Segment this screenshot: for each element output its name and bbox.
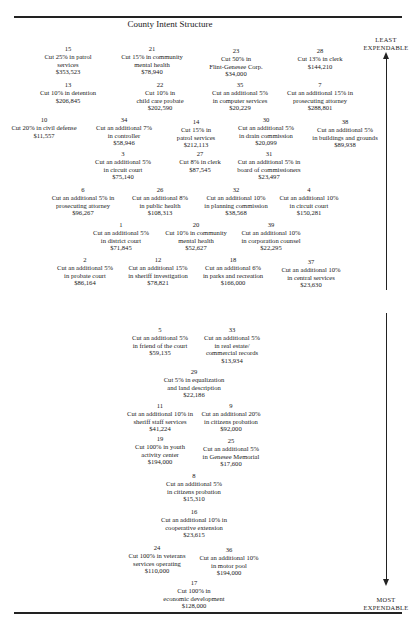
intent-item: 17Cut 100% ineconomic development$128,00… xyxy=(163,579,224,610)
item-description: Cut an additional 10% xyxy=(241,229,300,237)
item-amount: $194,000 xyxy=(199,569,258,577)
item-rank: 11 xyxy=(127,402,193,410)
axis-line-lower xyxy=(386,313,387,580)
item-description: services operating xyxy=(129,560,186,568)
item-description: Cut an additional 5% xyxy=(204,334,260,342)
item-description: mental health xyxy=(165,237,227,245)
item-amount: $11,557 xyxy=(11,132,76,140)
item-rank: 30 xyxy=(238,116,294,124)
item-rank: 9 xyxy=(201,402,260,410)
intent-item: 3Cut an additional 5%in circuit court$75… xyxy=(95,150,151,181)
top-rule xyxy=(14,16,402,18)
item-rank: 10 xyxy=(11,116,76,124)
item-rank: 23 xyxy=(209,47,262,55)
item-rank: 39 xyxy=(241,221,300,229)
item-description: in corporation counsel xyxy=(241,237,300,245)
item-amount: $87,545 xyxy=(179,166,221,174)
item-description: Cut 8% in clerk xyxy=(179,158,221,166)
item-description: Flint-Genesee Corp. xyxy=(209,63,262,71)
item-description: in probate court xyxy=(57,272,113,280)
intent-item: 33Cut an additional 5%in real estate/com… xyxy=(204,326,260,365)
item-amount: $22,186 xyxy=(164,391,225,399)
item-amount: $212,113 xyxy=(177,141,215,149)
item-description: Cut 100% in youth xyxy=(135,443,185,451)
intent-item: 38Cut an additional 5%in buildings and g… xyxy=(312,118,377,149)
item-amount: $166,000 xyxy=(203,279,263,287)
item-rank: 7 xyxy=(287,81,353,89)
item-amount: $288,801 xyxy=(287,104,353,112)
item-description: in citizens probation xyxy=(201,418,260,426)
item-description: child care probate xyxy=(136,97,183,105)
item-amount: $110,000 xyxy=(129,567,186,575)
item-rank: 17 xyxy=(163,579,224,587)
intent-item: 12Cut an additional 15%in sheriff invest… xyxy=(128,256,188,287)
intent-item: 15Cut 25% in patrolservices$353,523 xyxy=(44,45,91,76)
least-expendable-label: LEAST EXPENDABLE xyxy=(356,36,413,51)
intent-item: 28Cut 13% in clerk$144,210 xyxy=(298,47,343,70)
item-amount: $202,590 xyxy=(136,104,183,112)
item-description: in circuit court xyxy=(279,202,338,210)
item-description: Cut an additional 5% xyxy=(166,480,222,488)
intent-item: 2Cut an additional 5%in probate court$86… xyxy=(57,256,113,287)
item-rank: 25 xyxy=(203,437,260,445)
item-amount: $78,940 xyxy=(121,68,183,76)
item-description: Cut 100% in veterans xyxy=(129,552,186,560)
item-rank: 20 xyxy=(165,221,227,229)
most-label-line1: MOST xyxy=(356,596,413,604)
item-rank: 4 xyxy=(279,186,338,194)
intent-item: 4Cut an additional 10%in circuit court$1… xyxy=(279,186,338,217)
item-description: Cut an additional 6% xyxy=(203,264,263,272)
item-description: in motor pool xyxy=(199,562,258,570)
intent-item: 10Cut 20% in civil defense$11,557 xyxy=(11,116,76,139)
item-description: Cut 10% in xyxy=(136,89,183,97)
item-description: Cut an additional 5% xyxy=(57,264,113,272)
item-description: Cut an additional 20% xyxy=(201,410,260,418)
item-rank: 22 xyxy=(136,81,183,89)
item-description: Cut an additional 5% in xyxy=(52,194,115,202)
item-amount: $194,000 xyxy=(135,458,185,466)
intent-item: 29Cut 5% in equalizationand land descrip… xyxy=(164,368,225,399)
item-description: Cut 100% in xyxy=(163,587,224,595)
intent-item: 31Cut an additional 5% inboard of commis… xyxy=(237,150,300,181)
item-rank: 24 xyxy=(129,544,186,552)
intent-item: 9Cut an additional 20%in citizens probat… xyxy=(201,402,260,433)
item-description: cooperative extension xyxy=(161,524,227,532)
intent-item: 6Cut an additional 5% inprosecuting atto… xyxy=(52,186,115,217)
item-description: Cut an additional 5% xyxy=(132,334,188,342)
axis-line-upper xyxy=(386,58,387,290)
intent-item: 5Cut an additional 5%in friend of the co… xyxy=(132,326,188,357)
item-description: Cut 50% in xyxy=(209,55,262,63)
item-rank: 31 xyxy=(237,150,300,158)
item-description: prosecuting attorney xyxy=(52,202,115,210)
item-amount: $144,210 xyxy=(298,63,343,71)
intent-item: 18Cut an additional 6%in parks and recre… xyxy=(203,256,263,287)
item-description: Cut an additional 15% in xyxy=(287,89,353,97)
item-amount: $23,497 xyxy=(237,173,300,181)
item-rank: 6 xyxy=(52,186,115,194)
intent-item: 20Cut 10% in communitymental health$52,6… xyxy=(165,221,227,252)
item-amount: $41,224 xyxy=(127,425,193,433)
intent-item: 7Cut an additional 15% inprosecuting att… xyxy=(287,81,353,112)
item-rank: 19 xyxy=(135,435,185,443)
item-amount: $206,845 xyxy=(40,97,96,105)
item-rank: 28 xyxy=(298,47,343,55)
item-description: sheriff staff services xyxy=(127,418,193,426)
item-rank: 29 xyxy=(164,368,225,376)
item-description: in Genesee Memorial xyxy=(203,453,260,461)
item-rank: 37 xyxy=(281,258,340,266)
item-amount: $89,938 xyxy=(312,141,377,149)
item-description: Cut 10% in community xyxy=(165,229,227,237)
intent-item: 23Cut 50% inFlint-Genesee Corp.$34,000 xyxy=(209,47,262,78)
item-rank: 21 xyxy=(121,45,183,53)
intent-item: 16Cut an additional 10% incooperative ex… xyxy=(161,508,227,539)
item-description: Cut an additional 5% xyxy=(203,445,260,453)
item-description: in sheriff investigation xyxy=(128,272,188,280)
item-amount: $20,099 xyxy=(238,139,294,147)
most-label-line2: EXPENDABLE xyxy=(356,604,413,612)
item-amount: $71,845 xyxy=(93,244,149,252)
item-amount: $17,600 xyxy=(203,460,260,468)
item-description: and land description xyxy=(164,384,225,392)
item-description: in friend of the court xyxy=(132,342,188,350)
item-description: board of commissioners xyxy=(237,166,300,174)
item-description: mental health xyxy=(121,61,183,69)
